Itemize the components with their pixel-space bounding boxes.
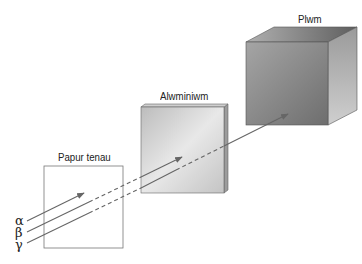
lead-label: Plwm	[298, 13, 322, 25]
lead-cube	[246, 27, 357, 125]
aluminium-plate	[141, 104, 228, 193]
radiation-penetration-diagram: Papur tenau Alwminiwm Plwm α β γ	[0, 0, 362, 264]
gamma-symbol: γ	[15, 238, 23, 251]
paper-label: Papur tenau	[58, 151, 111, 163]
diagram-canvas	[0, 0, 362, 264]
aluminium-label: Alwminiwm	[160, 90, 208, 102]
